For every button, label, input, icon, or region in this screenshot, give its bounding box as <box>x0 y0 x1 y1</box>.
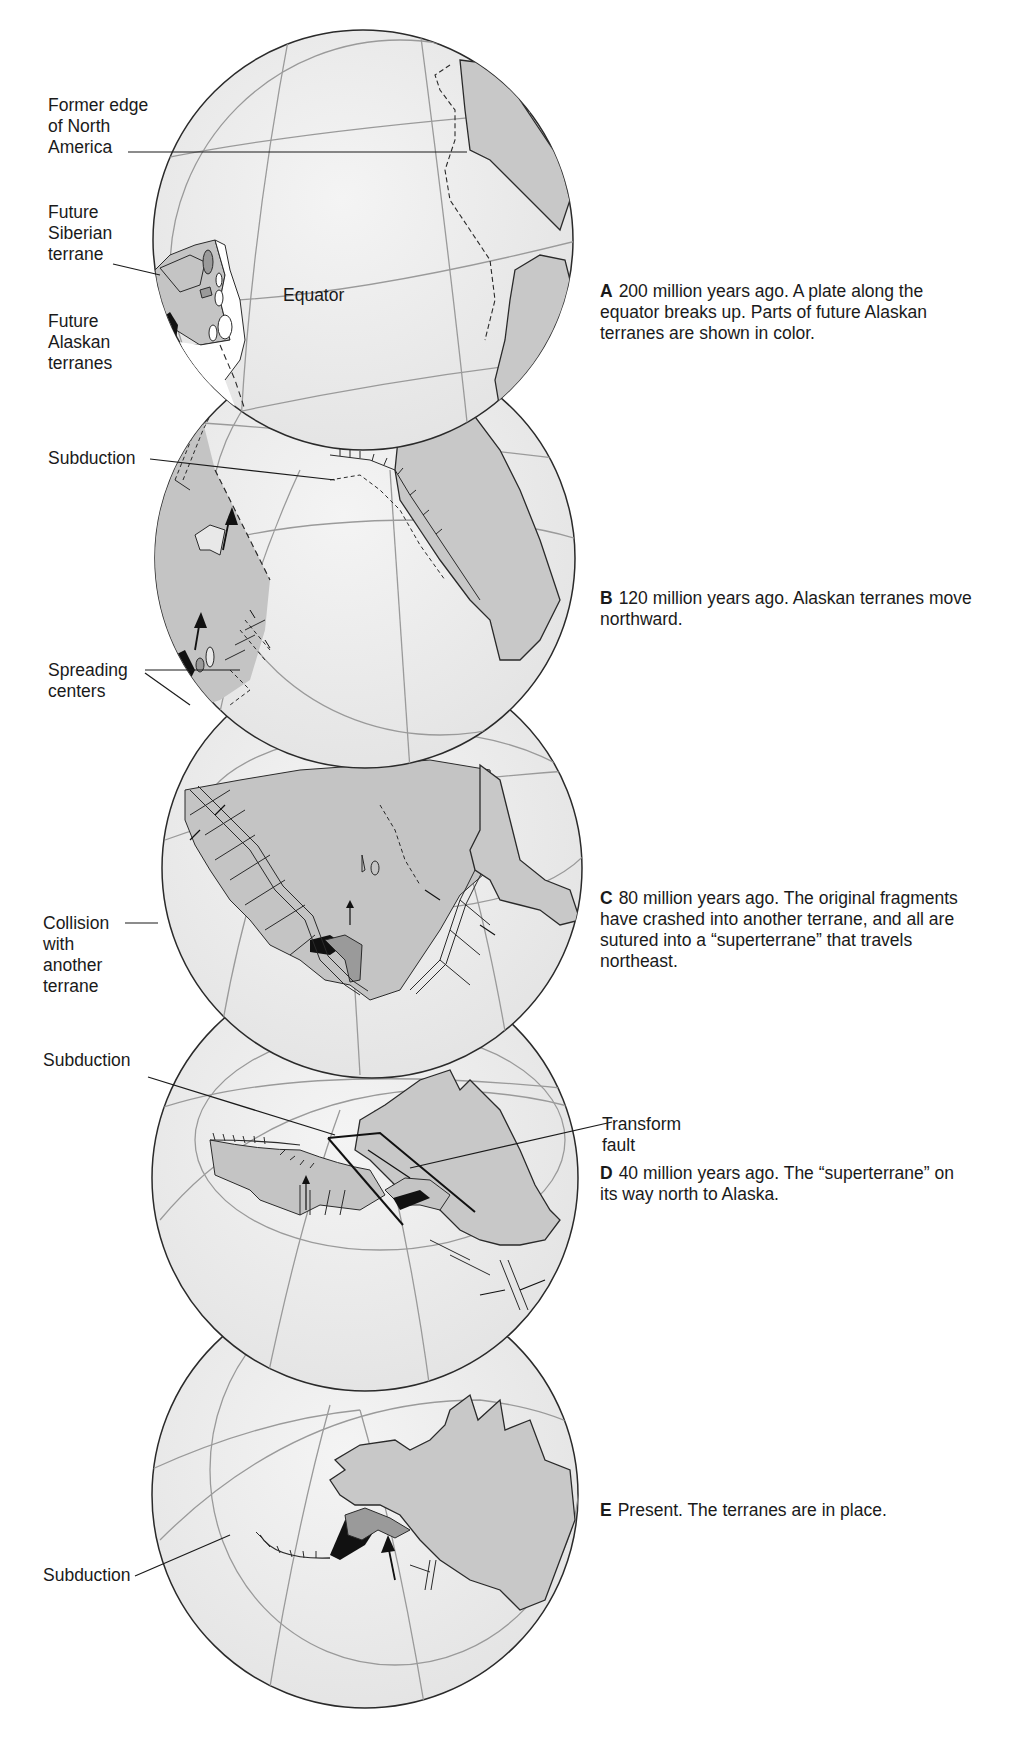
label-subduction-b: Subduction <box>48 448 136 469</box>
caption-text-c: 80 million years ago. The original fragm… <box>600 888 958 971</box>
label-former-edge-north-america: Former edge of North America <box>48 95 148 158</box>
caption-text-a: 200 million years ago. A plate along the… <box>600 281 927 343</box>
label-subduction-e: Subduction <box>43 1565 131 1586</box>
caption-text-d: 40 million years ago. The “superterrane”… <box>600 1163 954 1204</box>
caption-letter-c: C <box>600 888 613 908</box>
label-spreading-centers: Spreading centers <box>48 660 128 702</box>
equator-label: Equator <box>283 285 344 305</box>
label-future-siberian-terrane: Future Siberian terrane <box>48 202 112 265</box>
caption-letter-e: E <box>600 1500 612 1520</box>
caption-letter-a: A <box>600 281 613 301</box>
caption-letter-d: D <box>600 1163 613 1183</box>
caption-b: B120 million years ago. Alaskan terranes… <box>600 588 980 630</box>
caption-d: D40 million years ago. The “superterrane… <box>600 1163 960 1205</box>
caption-letter-b: B <box>600 588 613 608</box>
caption-text-e: Present. The terranes are in place. <box>618 1500 887 1520</box>
caption-text-b: 120 million years ago. Alaskan terranes … <box>600 588 972 629</box>
label-future-alaskan-terranes: Future Alaskan terranes <box>48 311 112 374</box>
label-collision-with-another-terrane: Collision with another terrane <box>43 913 109 997</box>
caption-e: EPresent. The terranes are in place. <box>600 1500 980 1521</box>
label-subduction-d: Subduction <box>43 1050 131 1071</box>
terrane-evolution-figure: Equator Former edge of North America Fut… <box>0 0 1024 1754</box>
globes-illustration: Equator <box>0 0 1024 1754</box>
label-transform-fault: Transform fault <box>602 1114 681 1156</box>
caption-c: C80 million years ago. The original frag… <box>600 888 970 972</box>
caption-a: A200 million years ago. A plate along th… <box>600 281 980 344</box>
